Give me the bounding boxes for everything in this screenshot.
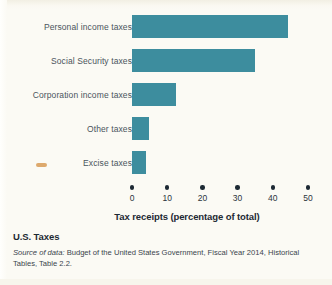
tick-dot-marker <box>306 185 311 190</box>
bar-track <box>132 78 308 112</box>
bar <box>132 83 176 106</box>
tick-dot-marker <box>271 185 276 190</box>
x-axis-tick: 40 <box>266 185 280 203</box>
caption-title: U.S. Taxes <box>13 231 313 242</box>
tick-label: 40 <box>266 193 280 203</box>
tick-dot-marker <box>200 185 205 190</box>
tick-dot-marker <box>235 185 240 190</box>
tick-dot-marker <box>130 185 135 190</box>
scan-edge-top <box>0 0 332 9</box>
bar-track <box>132 44 308 78</box>
bar-track <box>132 112 308 146</box>
bar <box>132 151 146 174</box>
category-label: Personal income taxes <box>2 10 132 44</box>
bar <box>132 49 255 72</box>
category-label: Social Security taxes <box>2 44 132 78</box>
caption-source-lead: Source of data: <box>13 248 65 257</box>
caption-source: Source of data: Budget of the United Sta… <box>13 247 313 269</box>
tick-label: 20 <box>195 193 209 203</box>
x-axis-tick: 30 <box>231 185 245 203</box>
scan-edge-bottom <box>0 279 332 285</box>
tick-label: 30 <box>231 193 245 203</box>
x-axis-title: Tax receipts (percentage of total) <box>0 211 332 222</box>
bar-chart-plot-area: Personal income taxesSocial Security tax… <box>0 10 332 190</box>
x-axis-tick: 50 <box>301 185 315 203</box>
category-label: Excise taxes <box>2 146 132 180</box>
bar-row: Social Security taxes <box>0 44 332 78</box>
tick-label: 0 <box>125 193 139 203</box>
scan-smudge-artifact <box>36 163 47 167</box>
bar-row: Excise taxes <box>0 146 332 180</box>
bar-row: Personal income taxes <box>0 10 332 44</box>
x-axis-tick: 20 <box>195 185 209 203</box>
tick-label: 50 <box>301 193 315 203</box>
x-axis-tick: 10 <box>160 185 174 203</box>
bar-track <box>132 146 308 180</box>
category-label: Other taxes <box>2 112 132 146</box>
bar <box>132 117 149 140</box>
bar <box>132 15 288 38</box>
bar-row: Other taxes <box>0 112 332 146</box>
tick-dot-marker <box>165 185 170 190</box>
figure-caption: U.S. Taxes Source of data: Budget of the… <box>13 231 313 269</box>
bar-track <box>132 10 308 44</box>
category-label: Corporation income taxes <box>2 78 132 112</box>
x-axis-tick: 0 <box>125 185 139 203</box>
bar-row: Corporation income taxes <box>0 78 332 112</box>
tick-label: 10 <box>160 193 174 203</box>
figure-panel: Personal income taxesSocial Security tax… <box>0 0 332 285</box>
